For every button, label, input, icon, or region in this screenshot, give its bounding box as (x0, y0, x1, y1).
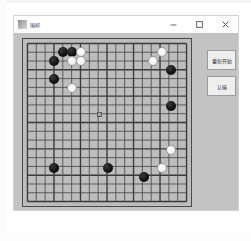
stone-white[interactable] (148, 56, 158, 66)
side-panel: 重新开始 认输 (205, 50, 238, 108)
stone-black[interactable] (139, 172, 149, 182)
close-button[interactable] (212, 16, 238, 33)
resign-button[interactable]: 认输 (207, 76, 236, 96)
minimize-button[interactable] (160, 16, 186, 33)
app-icon (18, 20, 27, 29)
stone-white[interactable] (157, 163, 167, 173)
go-board[interactable] (22, 38, 192, 207)
application-window: 围棋 重新开始 认输 (14, 16, 238, 210)
maximize-button[interactable] (186, 16, 212, 33)
stone-white[interactable] (157, 47, 167, 57)
backdrop-band-bottom (0, 232, 251, 241)
backdrop-band-left (0, 0, 6, 241)
backdrop-band-top (0, 0, 251, 3)
star-point (97, 112, 102, 117)
window-title: 围棋 (30, 21, 160, 28)
client-area: 重新开始 认输 (14, 33, 238, 210)
restart-button[interactable]: 重新开始 (207, 50, 236, 70)
stone-black[interactable] (103, 163, 113, 173)
stone-black[interactable] (166, 65, 176, 75)
stone-white[interactable] (166, 145, 176, 155)
board-grid (23, 39, 191, 206)
title-bar[interactable]: 围棋 (14, 16, 238, 34)
stone-black[interactable] (166, 101, 176, 111)
